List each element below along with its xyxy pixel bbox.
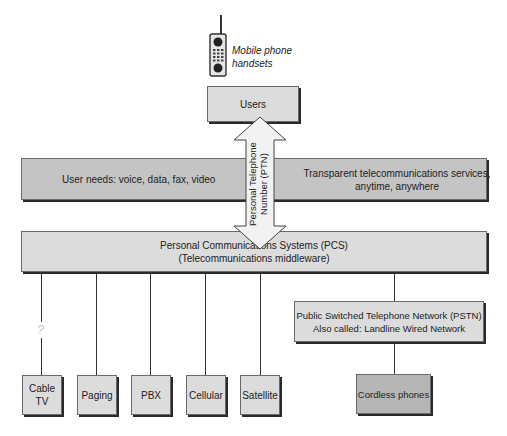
service-label: Satellite [242, 389, 278, 402]
pstn-box: Public Switched Telephone Network (PSTN)… [294, 301, 484, 342]
cable-tv-connector-lower [41, 338, 42, 375]
service-label-line2: TV [36, 395, 49, 408]
service-label: Paging [81, 389, 112, 402]
pstn-line1: Public Switched Telephone Network (PSTN) [296, 309, 481, 322]
ptn-arrow-label: Personal Telephone Number (PTN) [247, 134, 271, 234]
transparent-services-line1: Transparent telecommunications services, [302, 167, 492, 180]
pcs-line2: (Telecommunications middleware) [178, 252, 329, 265]
service-box-cellular: Cellular [186, 375, 226, 415]
mobile-phone-icon [205, 12, 231, 80]
cordless-phones-box: Cordless phones [356, 374, 431, 414]
uncertain-marker: ? [37, 322, 44, 337]
transparent-services-line2: anytime, anywhere [302, 180, 492, 193]
cordless-connector [394, 342, 395, 374]
service-box-pbx: PBX [131, 375, 171, 415]
handset-caption-line2: handsets [232, 57, 292, 70]
paging-connector [96, 272, 97, 375]
cordless-label: Cordless phones [358, 388, 429, 401]
users-label: Users [240, 98, 266, 111]
ptn-line2: Number (PTN) [258, 134, 269, 234]
transparent-services-text: Transparent telecommunications services,… [302, 167, 492, 193]
cellular-connector [205, 272, 206, 375]
handset-caption: Mobile phone handsets [232, 44, 292, 70]
ptn-line1: Personal Telephone [247, 134, 258, 234]
pstn-line2: Also called: Landline Wired Network [313, 322, 465, 335]
user-needs-text: User needs: voice, data, fax, video [62, 173, 215, 186]
cable-tv-connector-upper [41, 272, 42, 322]
pstn-connector [394, 272, 395, 301]
satellite-connector [260, 272, 261, 375]
service-box-cable-tv: Cable TV [22, 375, 62, 415]
service-label: Cable [29, 382, 55, 395]
service-box-paging: Paging [77, 375, 117, 415]
handset-caption-line1: Mobile phone [232, 44, 292, 57]
pbx-connector [150, 272, 151, 375]
service-box-satellite: Satellite [240, 375, 280, 415]
service-label: PBX [141, 389, 161, 402]
service-label: Cellular [189, 389, 223, 402]
